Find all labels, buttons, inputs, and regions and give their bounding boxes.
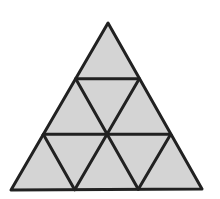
outer-triangle [11, 23, 202, 190]
figure-canvas [0, 0, 220, 199]
subdivided-triangle-diagram [0, 0, 220, 199]
